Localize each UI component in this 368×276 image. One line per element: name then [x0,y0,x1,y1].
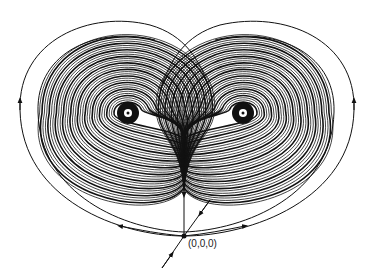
origin-point [182,234,187,239]
attractor-spirals [38,35,333,206]
lorenz-attractor-diagram [0,0,368,276]
left-focus [117,102,139,124]
origin-label: (0,0,0) [188,238,217,249]
right-focus [232,102,254,124]
